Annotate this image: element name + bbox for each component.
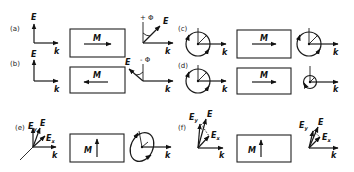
angle-arc — [136, 72, 143, 75]
depth-axis — [20, 147, 33, 160]
field-label-ey: Ey — [299, 121, 308, 132]
panel-label-b: (b) — [10, 60, 20, 68]
axis-label-e: E — [31, 50, 37, 59]
field-label-ey: Ey — [189, 113, 198, 124]
magnetization-label: M — [260, 34, 268, 43]
rotation-arrow-icon — [207, 49, 209, 52]
axis-label-k: k — [165, 47, 171, 56]
rotation-arrow-icon — [318, 49, 320, 52]
axis-label-k: k — [333, 85, 339, 94]
panel-e: (e) Ey E Ex k M k — [15, 119, 171, 165]
axis-label-k: k — [219, 151, 225, 160]
rotation-angle-label: - Φ — [140, 56, 151, 64]
magnetization-label: M — [93, 71, 101, 80]
axis-label-k: k — [52, 151, 58, 160]
panel-label-a: (a) — [10, 25, 20, 33]
axis-label-k: k — [165, 151, 171, 160]
field-label-e: E — [207, 110, 213, 119]
rotation-arrow-icon — [188, 72, 189, 75]
panel-label-c: (c) — [178, 25, 188, 33]
rotation-arrow-icon — [148, 155, 151, 157]
axis-label-k: k — [222, 48, 228, 57]
e-field-line — [198, 72, 207, 81]
output-field-label: E — [125, 58, 131, 67]
field-label-ex: Ex — [211, 131, 220, 141]
rotation-arrow-icon — [299, 35, 300, 38]
magnetization-label: M — [93, 34, 101, 43]
angle-arc — [143, 33, 150, 36]
panel-c: (c) k M k — [178, 25, 339, 58]
magnetization-label: M — [260, 71, 268, 80]
panel-d: (d) k M k — [178, 62, 339, 94]
magneto-optic-diagram: (a) E k M + Φ E k (b) E k M - Φ E k (c) — [0, 0, 354, 172]
e-field-line — [198, 35, 207, 44]
field-label-e: E — [40, 119, 46, 128]
field-label-e: E — [318, 118, 324, 127]
output-field-label: E — [163, 17, 169, 26]
rotation-angle-label: + Φ — [140, 14, 154, 22]
panel-label-f: (f) — [178, 124, 186, 132]
axis-label-k: k — [165, 85, 171, 94]
axis-label-k: k — [222, 85, 228, 94]
axis-label-e: E — [31, 13, 37, 22]
field-label-ex: Ex — [322, 133, 331, 143]
axis-label-k: k — [54, 47, 60, 56]
e-field-arrow-icon — [309, 127, 318, 148]
axis-label-k: k — [331, 151, 337, 160]
axis-label-k: k — [54, 85, 60, 94]
e-field-line — [309, 35, 318, 44]
axis-label-k: k — [333, 48, 339, 57]
panel-label-d: (d) — [178, 62, 188, 70]
panel-f: (f) Ey E Ex k M Ey E Ex k — [178, 110, 338, 162]
field-label-ex: Ex — [46, 134, 55, 144]
magnetization-label: M — [248, 146, 256, 155]
magnetization-label: M — [84, 146, 92, 155]
rotation-arrow-icon — [188, 35, 189, 38]
panel-label-e: (e) — [15, 124, 25, 132]
sample-box — [237, 135, 291, 162]
rotation-arrow-icon — [207, 86, 209, 89]
